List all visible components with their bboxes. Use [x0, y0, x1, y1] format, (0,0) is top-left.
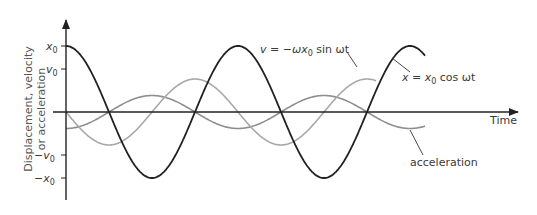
displacement-annotation: x = x0 cos ωt: [401, 71, 476, 86]
tick-label-x0: x0: [45, 40, 58, 55]
acceleration-leader-line: [410, 130, 423, 155]
tick-label-v0: v0: [46, 63, 58, 78]
x-axis-label: Time: [489, 114, 517, 127]
tick-label-neg-v0: −v0: [34, 149, 55, 164]
oscillation-diagram: x0 v0 −v0 −x0 Time v = −ωx0 sin ωt x = x…: [0, 0, 537, 215]
tick-label-neg-x0: −x0: [34, 172, 55, 187]
acceleration-annotation: acceleration: [410, 156, 478, 169]
velocity-leader-line: [347, 52, 357, 67]
velocity-annotation: v = −ωx0 sin ωt: [260, 43, 350, 58]
displacement-leader-line: [392, 58, 410, 72]
